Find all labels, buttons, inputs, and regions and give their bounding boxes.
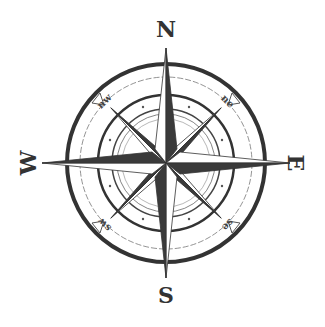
label-east: E [283,155,309,172]
east-point [166,152,290,174]
compass-rose: nw ne se sw N S W E [0,0,325,327]
label-southwest: sw [95,216,113,234]
cardinal-points [42,48,290,278]
west-point [42,152,166,174]
label-south: S [158,282,174,308]
label-west: W [15,150,41,176]
label-north: N [156,16,176,42]
